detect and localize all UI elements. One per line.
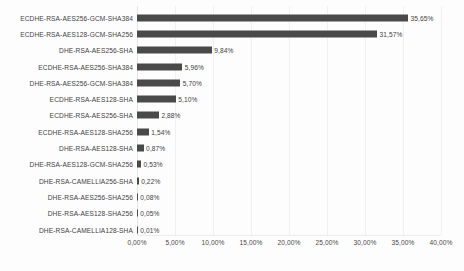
category-label: DHE-RSA-AES128-SHA (59, 145, 133, 152)
bar-value-label: 0,05% (140, 210, 159, 217)
bar (137, 30, 377, 37)
bar-value-label: 1,54% (151, 128, 170, 135)
bar-row: DHE-RSA-AES256-SHA2560,08% (0, 189, 464, 205)
bar-value-label: 35,65% (410, 14, 433, 21)
category-label: ECDHE-RSA-AES256-SHA384 (38, 63, 133, 70)
bar-row: ECDHE-RSA-AES256-SHA2,88% (0, 107, 464, 123)
category-label: ECDHE-RSA-AES128-SHA (50, 96, 133, 103)
category-label: DHE-RSA-AES256-GCM-SHA384 (30, 79, 133, 86)
bar (137, 112, 159, 119)
bar-value-label: 2,88% (161, 112, 180, 119)
x-tick-label: 30,00% (354, 239, 377, 246)
bar-and-value: 0,53% (137, 161, 163, 168)
bar-and-value: 5,70% (137, 79, 202, 86)
bar (137, 161, 141, 168)
bar-and-value: 31,57% (137, 30, 402, 37)
category-label: DHE-RSA-AES256-SHA256 (48, 193, 133, 200)
category-label: DHE-RSA-AES128-GCM-SHA256 (30, 161, 133, 168)
bar-row: DHE-RSA-AES128-SHA0,87% (0, 140, 464, 156)
bar-row: ECDHE-RSA-AES128-GCM-SHA25631,57% (0, 26, 464, 42)
category-label: ECDHE-RSA-AES128-GCM-SHA256 (20, 30, 133, 37)
bar-and-value: 35,65% (137, 14, 433, 21)
x-tick-label: 0,00% (127, 239, 146, 246)
bar-row: DHE-RSA-CAMELLIA256-SHA0,22% (0, 173, 464, 189)
x-tick-label: 40,00% (430, 239, 453, 246)
bar-and-value: 0,87% (137, 145, 165, 152)
bar-and-value: 0,01% (137, 226, 159, 233)
x-tick-label: 25,00% (316, 239, 339, 246)
bar-value-label: 0,22% (141, 177, 160, 184)
bar (137, 96, 176, 103)
bar-row: DHE-RSA-CAMELLIA128-SHA0,01% (0, 221, 464, 237)
category-label: DHE-RSA-CAMELLIA256-SHA (39, 177, 133, 184)
category-label: DHE-RSA-AES128-SHA256 (48, 210, 133, 217)
bar-and-value: 0,22% (137, 177, 160, 184)
bar-and-value: 5,10% (137, 96, 197, 103)
bar (137, 145, 144, 152)
bar-and-value: 0,05% (137, 210, 159, 217)
bar-row: ECDHE-RSA-AES128-SHA5,10% (0, 91, 464, 107)
bar-row: DHE-RSA-AES128-GCM-SHA2560,53% (0, 156, 464, 172)
bar-value-label: 9,84% (214, 47, 233, 54)
bar (137, 177, 139, 184)
bar (137, 47, 212, 54)
x-axis-tick-labels: 0,00%5,00%10,00%15,00%20,00%25,00%30,00%… (0, 239, 464, 255)
bar-value-label: 0,53% (144, 161, 163, 168)
bar-and-value: 5,96% (137, 63, 204, 70)
bar-value-label: 5,96% (185, 63, 204, 70)
x-tick-label: 5,00% (165, 239, 184, 246)
category-label: DHE-RSA-AES256-SHA (59, 47, 133, 54)
bar-value-label: 0,08% (140, 193, 159, 200)
x-tick-label: 20,00% (278, 239, 301, 246)
bar-row: DHE-RSA-AES256-SHA9,84% (0, 42, 464, 58)
bar (137, 79, 180, 86)
bar-and-value: 0,08% (137, 193, 159, 200)
category-label: ECDHE-RSA-AES256-GCM-SHA384 (20, 14, 133, 21)
bar (137, 63, 182, 70)
bar (137, 128, 149, 135)
bar-row: ECDHE-RSA-AES256-GCM-SHA38435,65% (0, 10, 464, 26)
bar-and-value: 1,54% (137, 128, 170, 135)
bar (137, 193, 138, 200)
category-label: ECDHE-RSA-AES256-SHA (50, 112, 133, 119)
bar-chart: ECDHE-RSA-AES256-GCM-SHA38435,65%ECDHE-R… (0, 0, 464, 271)
x-tick-label: 10,00% (202, 239, 225, 246)
bar (137, 210, 138, 217)
bar-row: DHE-RSA-AES128-SHA2560,05% (0, 205, 464, 221)
bar-value-label: 0,87% (146, 145, 165, 152)
bar-row: ECDHE-RSA-AES128-SHA2561,54% (0, 124, 464, 140)
bar (137, 226, 138, 233)
x-tick-label: 15,00% (240, 239, 263, 246)
bar-and-value: 9,84% (137, 47, 233, 54)
bar-and-value: 2,88% (137, 112, 181, 119)
category-label: ECDHE-RSA-AES128-SHA256 (38, 128, 133, 135)
bar-row: ECDHE-RSA-AES256-SHA3845,96% (0, 58, 464, 74)
category-label: DHE-RSA-CAMELLIA128-SHA (39, 226, 133, 233)
x-tick-label: 35,00% (392, 239, 415, 246)
bar-value-label: 31,57% (379, 30, 402, 37)
bar-value-label: 0,01% (140, 226, 159, 233)
bar-value-label: 5,10% (178, 96, 197, 103)
bar-value-label: 5,70% (183, 79, 202, 86)
bar-row: DHE-RSA-AES256-GCM-SHA3845,70% (0, 75, 464, 91)
bar (137, 14, 408, 21)
